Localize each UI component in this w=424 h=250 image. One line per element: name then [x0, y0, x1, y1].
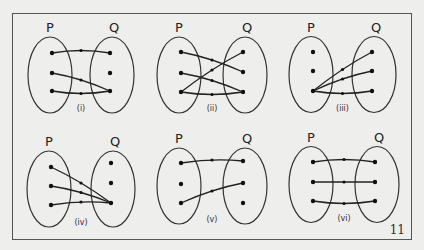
element-dot-p: [50, 51, 54, 55]
element-dot-q: [373, 199, 377, 203]
element-dot-q: [241, 50, 245, 54]
element-dot-p: [179, 182, 183, 186]
element-dot-q: [109, 161, 113, 165]
arrowhead-icon: [341, 77, 344, 80]
mapping-diagrams: PQ(i)PQ(ii)PQ(iii)PQ(iv)PQ(v)PQ(vi)11: [0, 0, 424, 250]
element-dot-q: [373, 160, 377, 164]
element-dot-q: [108, 71, 112, 75]
arrowhead-icon: [342, 180, 345, 183]
element-dot-q: [108, 89, 112, 93]
set-p-ellipse: [289, 147, 333, 223]
arrowhead-icon: [79, 200, 82, 203]
arrowhead-icon: [210, 58, 213, 61]
set-q-label: Q: [374, 130, 384, 145]
set-p-label: P: [307, 130, 315, 145]
element-dot-q: [370, 50, 374, 54]
set-q-ellipse: [223, 37, 267, 113]
element-dot-p: [49, 165, 53, 169]
arrowhead-icon: [79, 181, 82, 184]
element-dot-p: [179, 50, 183, 54]
set-q-ellipse: [355, 147, 399, 223]
element-dot-p: [49, 203, 53, 207]
element-dot-q: [241, 90, 245, 94]
mapping-arrow: [181, 73, 243, 92]
panel-v: PQ(v): [157, 131, 267, 224]
mapping-arrow: [313, 71, 372, 91]
arrowhead-icon: [210, 158, 213, 161]
arrowhead-icon: [79, 49, 82, 52]
element-dot-q: [109, 201, 113, 205]
element-dot-q: [370, 69, 374, 73]
arrowhead-icon: [341, 92, 344, 95]
arrowhead-icon: [79, 92, 82, 95]
arrowhead-icon: [210, 68, 213, 71]
element-dot-p: [311, 199, 315, 203]
set-p-ellipse: [157, 37, 201, 113]
mapping-arrow: [181, 52, 243, 92]
element-dot-q: [241, 70, 245, 74]
page-number: 11: [390, 223, 405, 237]
panel-label: (iv): [74, 218, 87, 227]
arrowhead-icon: [210, 189, 213, 192]
arrowhead-icon: [210, 79, 213, 82]
element-dot-q: [109, 181, 113, 185]
set-p-label: P: [45, 134, 53, 149]
panel-i: PQ(i): [28, 20, 134, 113]
mapping-arrow: [52, 73, 110, 91]
panel-iv: PQ(iv): [27, 134, 135, 227]
panel-iii: PQ(iii): [289, 20, 396, 113]
panel-label: (ii): [207, 104, 218, 113]
set-p-ellipse: [28, 37, 72, 113]
set-p-label: P: [175, 20, 183, 35]
element-dot-p: [311, 89, 315, 93]
arrowhead-icon: [342, 202, 345, 205]
set-q-label: Q: [371, 20, 381, 35]
element-dot-q: [108, 51, 112, 55]
mapping-arrow: [51, 167, 111, 203]
element-dot-p: [179, 201, 183, 205]
element-dot-q: [241, 159, 245, 163]
element-dot-p: [311, 69, 315, 73]
set-p-label: P: [46, 20, 54, 35]
element-dot-p: [49, 184, 53, 188]
element-dot-q: [241, 181, 245, 185]
element-dot-p: [311, 160, 315, 164]
panel-label: (i): [77, 104, 85, 113]
set-q-label: Q: [110, 134, 120, 149]
panel-vi: PQ(vi): [289, 130, 399, 223]
set-q-label: Q: [242, 20, 252, 35]
mapping-arrow: [181, 183, 243, 203]
mapping-arrow: [313, 52, 372, 91]
panel-label: (v): [207, 215, 218, 224]
arrowhead-icon: [342, 158, 345, 161]
panel-ii: PQ(ii): [157, 20, 267, 113]
set-p-label: P: [175, 131, 183, 146]
element-dot-p: [50, 89, 54, 93]
element-dot-q: [373, 180, 377, 184]
element-dot-q: [370, 89, 374, 93]
arrowhead-icon: [79, 78, 82, 81]
panel-label: (iii): [336, 104, 349, 113]
element-dot-p: [179, 90, 183, 94]
element-dot-p: [179, 161, 183, 165]
set-p-label: P: [307, 20, 315, 35]
set-p-ellipse: [157, 148, 201, 224]
panel-label: (vi): [337, 214, 350, 223]
arrowhead-icon: [341, 68, 344, 71]
set-q-label: Q: [242, 131, 252, 146]
element-dot-p: [50, 71, 54, 75]
element-dot-p: [179, 71, 183, 75]
set-q-ellipse: [90, 37, 134, 113]
arrowhead-icon: [210, 93, 213, 96]
arrowhead-icon: [79, 191, 82, 194]
set-q-label: Q: [109, 20, 119, 35]
element-dot-p: [311, 180, 315, 184]
element-dot-q: [241, 201, 245, 205]
element-dot-p: [311, 50, 315, 54]
set-p-ellipse: [289, 37, 333, 113]
